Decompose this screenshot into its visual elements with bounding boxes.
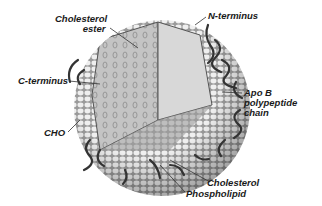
label-cho: CHO [44, 128, 65, 138]
label-c-terminus: C-terminus [18, 76, 68, 86]
label-cholesterol: Cholesterol [207, 178, 259, 188]
label-n-terminus: N-terminus [208, 11, 258, 21]
label-cholesterol-ester-line2: ester [55, 24, 107, 34]
lipoprotein-diagram: Cholesterol ester N-terminus C-terminus … [0, 0, 322, 206]
label-apo-b-line3: chain [244, 108, 297, 118]
label-apo-b-chain: Apo B polypeptide chain [244, 88, 297, 118]
label-cholesterol-ester: Cholesterol ester [55, 14, 107, 34]
label-phospholipid: Phospholipid [186, 189, 246, 199]
